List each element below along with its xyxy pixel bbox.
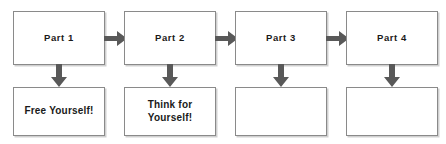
bottom-box-part-4[interactable] [346, 87, 438, 136]
top-box-part-2-label: Part 2 [155, 32, 185, 44]
arrow-down-icon-2 [162, 64, 178, 87]
bottom-box-part-3[interactable] [235, 87, 327, 136]
top-box-part-1[interactable]: Part 1 [13, 11, 105, 65]
bottom-box-part-1[interactable]: Free Yourself! [13, 87, 105, 136]
top-box-part-2[interactable]: Part 2 [124, 11, 216, 65]
bottom-box-part-2-label: Think for Yourself! [139, 99, 201, 124]
bottom-box-part-2[interactable]: Think for Yourself! [124, 87, 216, 136]
arrow-down-icon-3 [273, 64, 289, 87]
arrow-down-icon-4 [384, 64, 400, 87]
bottom-box-part-1-label: Free Yourself! [24, 105, 93, 118]
top-box-part-4-label: Part 4 [377, 32, 407, 44]
process-flow-diagram: Part 1 Free Yourself! Part 2 Think for Y… [0, 0, 446, 144]
arrow-down-icon-1 [51, 64, 67, 87]
top-box-part-1-label: Part 1 [44, 32, 74, 44]
top-box-part-3-label: Part 3 [266, 32, 296, 44]
top-box-part-3[interactable]: Part 3 [235, 11, 327, 65]
top-box-part-4[interactable]: Part 4 [346, 11, 438, 65]
